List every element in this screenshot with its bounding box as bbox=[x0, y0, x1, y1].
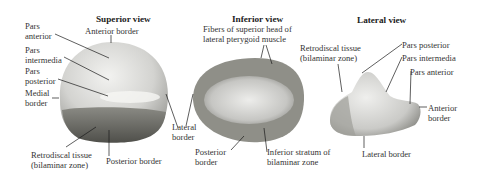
inferior-view-disc bbox=[193, 58, 304, 142]
label-pars-intermedia-lateral: Pars intermedia bbox=[402, 53, 456, 63]
label-anterior-border-lateral: Anteriorborder bbox=[428, 103, 457, 123]
label-pars-intermedia: Parsintermedia bbox=[25, 45, 62, 65]
label-retrodiscal-tissue: Retrodiscal tissue(bilaminar zone) bbox=[31, 150, 92, 170]
label-text: Lateralborder bbox=[172, 122, 196, 142]
label-text: Posteriorborder bbox=[195, 147, 226, 167]
label-pars-posterior-lateral: Pars posterior bbox=[402, 40, 450, 50]
label-posterior-border-inferior: Posteriorborder bbox=[195, 147, 226, 167]
label-text: Anteriorborder bbox=[428, 103, 457, 123]
label-text: Medialborder bbox=[25, 88, 49, 108]
lateral-view-disc bbox=[330, 72, 421, 136]
label-inferior-stratum: Inferior stratum ofbilaminar zone bbox=[267, 147, 330, 167]
label-text: Inferior stratum ofbilaminar zone bbox=[267, 147, 330, 167]
label-pars-anterior-lateral: Pars anterior bbox=[410, 67, 454, 77]
lateral-view-title: Lateral view bbox=[357, 15, 406, 25]
label-medial-border: Medialborder bbox=[25, 88, 49, 108]
label-anterior-border: Anterior border bbox=[85, 26, 139, 36]
label-lateral-border-lateral: Lateral border bbox=[362, 149, 411, 159]
label-text: Retrodiscal tissue(bilaminar zone) bbox=[300, 43, 361, 63]
label-text: Parsintermedia bbox=[25, 45, 62, 65]
label-text: Parsanterior bbox=[25, 21, 52, 41]
superior-view-disc bbox=[60, 42, 168, 143]
label-lateral-border: Lateralborder bbox=[172, 122, 196, 142]
label-pars-anterior: Parsanterior bbox=[25, 21, 52, 41]
label-text: Parsposterior bbox=[25, 66, 56, 86]
label-posterior-border: Posterior border bbox=[106, 156, 162, 166]
label-pars-posterior: Parsposterior bbox=[25, 66, 56, 86]
label-text: Retrodiscal tissue(bilaminar zone) bbox=[31, 150, 92, 170]
label-lateral-pterygoid-fibers: Fibers of superior head oflateral pteryg… bbox=[203, 24, 292, 44]
label-text: Fibers of superior head oflateral pteryg… bbox=[203, 24, 292, 44]
superior-view-title: Superior view bbox=[96, 14, 151, 24]
label-retrodiscal-tissue-lateral: Retrodiscal tissue(bilaminar zone) bbox=[300, 43, 361, 63]
inferior-view-title: Inferior view bbox=[232, 14, 283, 24]
